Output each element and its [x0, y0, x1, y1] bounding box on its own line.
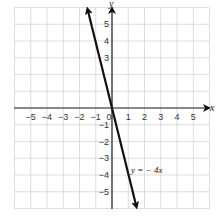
x-tick-label: −4 [42, 112, 52, 122]
y-tick-label: 4 [104, 36, 109, 46]
y-tick-label: −2 [99, 137, 109, 147]
equation-label: y = − 4x [130, 165, 162, 175]
x-tick-label: 4 [174, 112, 179, 122]
x-tick-label: 3 [158, 112, 163, 122]
y-tick-label: −3 [99, 153, 109, 163]
x-tick-label: −5 [26, 112, 36, 122]
y-tick-label: 5 [104, 19, 109, 29]
x-axis-label: x [209, 102, 215, 113]
x-tick-label: 2 [142, 112, 147, 122]
axes [14, 9, 208, 209]
y-tick-label: 3 [104, 53, 109, 63]
coordinate-plane: −5−4−3−2−1012345543−1−2−3−4−5 x y y = − … [0, 0, 216, 223]
y-tick-label: −5 [99, 187, 109, 197]
x-tick-label: 1 [126, 112, 131, 122]
x-tick-label: −3 [58, 112, 68, 122]
y-tick-label: −1 [99, 120, 109, 130]
y-tick-label: −4 [99, 170, 109, 180]
x-tick-label: −2 [74, 112, 84, 122]
y-axis-label: y [108, 0, 114, 9]
x-tick-label: 5 [191, 112, 196, 122]
